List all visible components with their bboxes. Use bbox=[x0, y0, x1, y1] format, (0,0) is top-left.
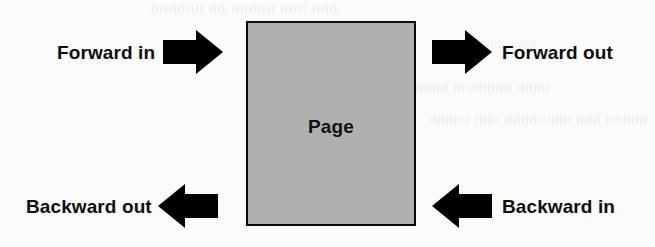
flow-backward-out: Backward out bbox=[26, 183, 218, 229]
scan-artifact-text: nnnnn nnn nnnnnnnn nnn nnnnn bbox=[428, 110, 647, 128]
scan-artifact-text: nnnn nnnnnnn nnnn bbox=[415, 78, 550, 96]
flow-backward-in: Backward in bbox=[432, 183, 615, 229]
arrow-left-icon bbox=[432, 183, 492, 229]
flow-label-backward-out: Backward out bbox=[26, 197, 152, 216]
page-rectangle: Page bbox=[246, 21, 416, 226]
flow-label-backward-in: Backward in bbox=[502, 197, 615, 216]
page-label: Page bbox=[248, 116, 414, 138]
scan-artifact-text: nnn nnn nnnnn nn nnnnnn bbox=[150, 0, 338, 18]
diagram-canvas: nnn nnn nnnnn nn nnnnnn nnnn nnnnnnn nnn… bbox=[0, 0, 655, 247]
arrow-right-icon bbox=[163, 29, 223, 75]
arrow-right-icon bbox=[432, 29, 492, 75]
flow-label-forward-in: Forward in bbox=[57, 43, 155, 62]
arrow-left-icon bbox=[158, 183, 218, 229]
flow-label-forward-out: Forward out bbox=[502, 43, 613, 62]
flow-forward-in: Forward in bbox=[57, 29, 223, 75]
flow-forward-out: Forward out bbox=[432, 29, 613, 75]
